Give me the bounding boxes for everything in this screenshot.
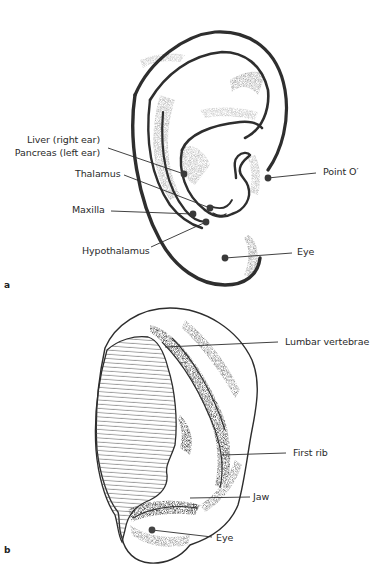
panel-label-a: a [4,280,10,290]
label-lumbar-vertebrae: Lumbar vertebrae [285,336,369,348]
leader-hypothalamus [151,222,206,247]
label-pancreas: Pancreas (left ear) [10,147,100,159]
label-maxilla: Maxilla [72,204,105,216]
point-eye-a [222,255,229,262]
label-eye-b: Eye [216,532,233,544]
label-eye-a: Eye [297,246,314,258]
label-hypothalamus: Hypothalamus [82,245,150,257]
label-thalamus: Thalamus [75,168,121,180]
leader-point-o [268,173,316,178]
label-point-o-prime: Point O′ [323,166,358,178]
figure-a-lateral-ear: Liver (right ear) Pancreas (left ear) Th… [0,0,381,290]
point-liver [181,171,188,178]
point-thalamus [207,205,214,212]
label-first-rib: First rib [293,447,328,459]
point-maxilla [190,211,197,218]
point-o-prime [265,175,272,182]
point-hypothalamus [203,219,210,226]
point-eye-b [149,527,156,534]
figure-b-posterior-ear: Lumbar vertebrae First rib Jaw Eye b [0,290,381,577]
label-liver: Liver (right ear) [20,134,100,146]
panel-label-b: b [4,545,10,555]
leader-maxilla [111,211,193,214]
ear-illustration-b [0,290,381,577]
label-jaw: Jaw [253,491,269,503]
